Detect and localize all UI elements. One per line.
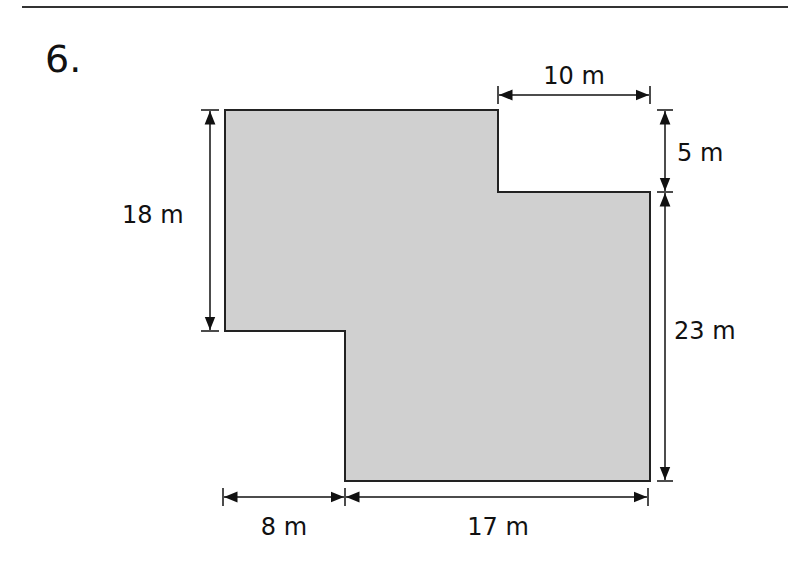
label-17m: 17 m [467, 513, 529, 541]
shaded-shape [225, 110, 650, 481]
dimension-top-gap-width: 10 m [498, 62, 650, 104]
problem-number: 6. [45, 37, 81, 81]
label-23m: 23 m [674, 317, 736, 345]
label-18m: 18 m [122, 201, 184, 229]
dimension-bottom: 8 m 17 m [223, 488, 648, 541]
problem-figure: 6. 10 m 5 m 23 m 18 m 8 m 17 m [0, 0, 788, 579]
dimension-right-height: 23 m [657, 193, 736, 481]
dimension-top-gap-height: 5 m [657, 110, 723, 192]
label-5m: 5 m [677, 139, 723, 167]
dimension-left-height: 18 m [122, 110, 219, 331]
label-10m: 10 m [543, 62, 605, 90]
label-8m: 8 m [261, 513, 307, 541]
